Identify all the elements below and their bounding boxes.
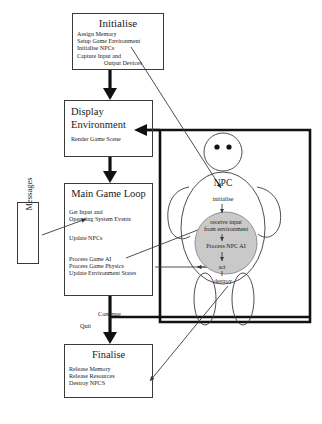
display-title-line2: Environment	[65, 118, 152, 131]
node-initialise[interactable]: Initialise Assign Memory Setup Game Envi…	[72, 13, 164, 70]
diagram-canvas: Initialise Assign Memory Setup Game Envi…	[0, 0, 322, 424]
loop-title: Main Game Loop	[65, 188, 152, 200]
initialise-line-3: Initialise NPCs	[77, 45, 159, 52]
loop-line-physics: Process Game Physics	[69, 263, 148, 270]
npc-arm-right	[257, 187, 281, 237]
npc-initialise-label: initialise	[199, 196, 247, 202]
edge-loop-to-finalise	[103, 296, 117, 344]
display-subtext: Render Game Scene	[65, 131, 152, 142]
finalise-line-1: Release Memory	[69, 366, 148, 373]
initialise-line-4: Capture Input and	[77, 53, 159, 60]
npc-receive-input-line1: receive input	[196, 219, 256, 226]
loop-line-env-states: Update Environment States	[69, 270, 148, 277]
initialise-line-2: Setup Game Environment	[77, 38, 159, 45]
loop-group-input: Get Input and Operating System Events	[65, 209, 152, 223]
npc-label: NPC	[201, 178, 245, 188]
edge-initialise-to-display	[103, 70, 117, 100]
npc-receive-input-line2: from environment	[196, 226, 256, 233]
loop-group-npcs: Update NPCs	[65, 235, 152, 242]
npc-process-ai-label: Process NPC AI	[196, 243, 256, 249]
npc-arm-left	[168, 187, 190, 239]
messages-label: Messages	[18, 163, 40, 225]
loop-line-os-events: Operating System Events	[69, 216, 148, 223]
loop-line-get-input: Get Input and	[69, 209, 148, 216]
display-title-line1: Display	[65, 101, 152, 118]
node-finalise[interactable]: Finalise Release Memory Release Resource…	[64, 344, 153, 398]
npc-destroy-label: destroy	[201, 278, 245, 284]
loop-group-processing: Process Game AI Process Game Physics Upd…	[65, 256, 152, 278]
node-main-game-loop[interactable]: Main Game Loop Get Input and Operating S…	[64, 183, 153, 296]
finalise-lines: Release Memory Release Resources Destroy…	[65, 366, 152, 388]
npc-eye-right	[226, 144, 231, 149]
initialise-lines: Assign Memory Setup Game Environment Ini…	[73, 31, 163, 67]
finalise-line-2: Release Resources	[69, 373, 148, 380]
initialise-title: Initialise	[73, 17, 163, 29]
finalise-line-3: Destroy NPCS	[69, 380, 148, 387]
npc-act-label: act	[209, 264, 235, 270]
loop-line-game-ai: Process Game AI	[69, 256, 148, 263]
edge-label-quit: Quit	[80, 322, 91, 329]
initialise-line-1: Assign Memory	[77, 31, 159, 38]
npc-receive-input-label: receive input from environment	[196, 219, 256, 233]
npc-head	[204, 133, 242, 171]
finalise-title: Finalise	[65, 349, 152, 361]
edge-label-continue: Continue	[98, 310, 121, 317]
initialise-line-5: Output Devices	[77, 60, 159, 67]
npc-eye-left	[214, 144, 219, 149]
loop-line-update-npcs: Update NPCs	[69, 235, 148, 242]
node-display-environment[interactable]: Display Environment Render Game Scene	[64, 100, 153, 157]
edge-display-to-loop	[103, 157, 117, 183]
node-messages[interactable]: Messages	[17, 202, 39, 264]
